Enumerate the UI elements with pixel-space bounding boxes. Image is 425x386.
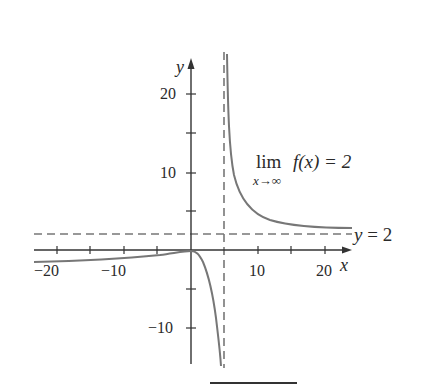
y-axis-label: y (176, 58, 184, 76)
curve-right-branch (227, 54, 352, 228)
y-tick-label-20: 20 (160, 86, 176, 102)
x-tick-label-20: 20 (316, 263, 332, 279)
y-axis (186, 58, 196, 364)
x-axis-label: x (340, 256, 348, 274)
limit-lim: lim (256, 152, 281, 171)
limit-function: f(x) = 2 (293, 152, 351, 171)
bottom-rule (210, 382, 297, 384)
y-tick-label-10: 10 (160, 165, 176, 181)
x-tick-label-neg10: −10 (101, 263, 126, 279)
x-axis-arrow-icon (342, 247, 352, 254)
y-tick-label-neg10: −10 (148, 320, 173, 336)
limit-subscript: x→∞ (253, 174, 281, 187)
asymptote-label: y = 2 (354, 225, 392, 244)
chart-plot (0, 0, 425, 386)
x-axis (34, 246, 352, 254)
y-axis-arrow-icon (188, 58, 195, 69)
x-tick-label-neg20: −20 (34, 263, 59, 279)
x-tick-label-10: 10 (249, 263, 265, 279)
curve-left-branch (34, 251, 221, 366)
